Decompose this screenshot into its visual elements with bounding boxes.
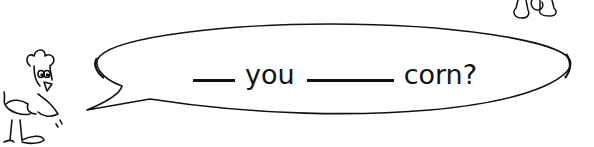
fill-in-blank-prompt: you corn?	[193, 54, 477, 90]
answer-blank-1[interactable]	[193, 79, 235, 82]
worksheet-scene: you corn?	[0, 0, 594, 147]
answer-blank-2[interactable]	[307, 79, 394, 82]
chicken-icon	[4, 50, 62, 143]
animal-feet-icon	[514, 0, 556, 18]
prompt-word-you: you	[245, 60, 295, 90]
prompt-word-corn: corn?	[404, 60, 477, 90]
